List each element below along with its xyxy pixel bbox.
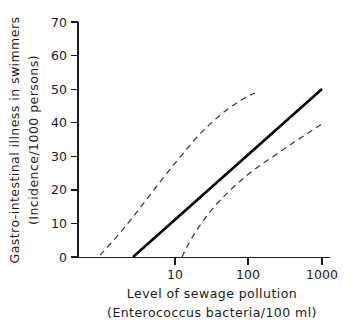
x-tick-label: 1000 (306, 267, 338, 282)
chart-figure: 70 60 50 40 30 20 10 0 10 100 1000 Leve (0, 0, 356, 329)
x-axis-ticks (175, 258, 322, 266)
x-tick-label: 10 (167, 267, 183, 282)
y-axis-title-line2: (Incidence/1000 persons) (26, 55, 41, 225)
y-tick-label: 20 (51, 182, 67, 197)
y-tick-label: 30 (51, 149, 67, 164)
upper-confidence-curve (100, 93, 255, 255)
x-tick-label-group: 10 100 1000 (167, 267, 338, 282)
lower-confidence-curve (182, 124, 322, 257)
y-tick-label: 60 (51, 48, 67, 63)
fitted-line (133, 89, 322, 257)
y-tick-label-group: 70 60 50 40 30 20 10 0 (51, 15, 67, 265)
x-axis-title-line2: (Enterococcus bacteria/100 ml) (107, 305, 317, 320)
y-tick-label: 0 (59, 250, 67, 265)
x-axis-title-line1: Level of sewage pollution (127, 286, 297, 301)
y-axis-title-line1: Gastro-intestinal illness in swimmers (7, 17, 22, 264)
dose-response-plot: 70 60 50 40 30 20 10 0 10 100 1000 Leve (0, 0, 356, 329)
y-tick-label: 40 (51, 115, 67, 130)
y-tick-label: 10 (51, 216, 67, 231)
y-tick-label: 50 (51, 82, 67, 97)
y-tick-label: 70 (51, 15, 67, 30)
x-tick-label: 100 (236, 267, 260, 282)
y-axis-ticks (71, 22, 78, 257)
